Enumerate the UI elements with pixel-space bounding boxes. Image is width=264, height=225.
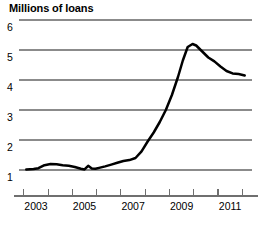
- y-tick-label-5: 5: [7, 51, 13, 63]
- x-tick-label-2005: 2005: [73, 200, 97, 212]
- y-tick-label-6: 6: [7, 21, 13, 33]
- chart-figure: Millions of loans 654321 200320052007200…: [0, 0, 264, 225]
- y-axis-tick-labels: 654321: [7, 21, 13, 183]
- x-axis-group: 20032005200720092011: [14, 189, 258, 212]
- loans-line-series: [26, 44, 244, 169]
- x-tick-label-2003: 2003: [24, 200, 48, 212]
- y-tick-label-1: 1: [7, 171, 13, 183]
- x-tick-label-2011: 2011: [219, 200, 242, 212]
- y-tick-label-3: 3: [7, 111, 13, 123]
- x-tick-label-2007: 2007: [121, 200, 145, 212]
- y-tick-label-4: 4: [7, 81, 13, 93]
- x-tick-label-2009: 2009: [170, 200, 194, 212]
- y-tick-label-2: 2: [7, 141, 13, 153]
- line-chart-plot: 654321 20032005200720092011: [0, 0, 264, 225]
- data-series-group: [26, 44, 244, 169]
- gridlines-group: [19, 20, 252, 170]
